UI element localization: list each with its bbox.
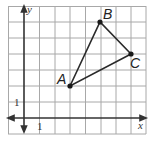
point-c-label: C — [130, 56, 140, 70]
y-tick-label: 1 — [14, 97, 20, 108]
coordinate-plane — [0, 0, 154, 142]
y-axis-label: y — [27, 4, 32, 15]
x-tick-label: 1 — [37, 121, 43, 132]
x-axis-label: x — [138, 120, 143, 131]
point-a — [67, 83, 72, 88]
axes — [8, 6, 146, 132]
point-b-label: B — [103, 7, 112, 21]
point-b — [97, 19, 102, 24]
point-a-label: A — [57, 72, 66, 86]
